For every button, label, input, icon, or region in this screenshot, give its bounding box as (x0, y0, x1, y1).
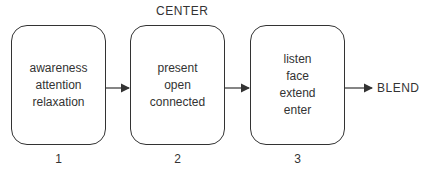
stage-1-line: attention (35, 77, 81, 94)
stage-2-line: present (157, 60, 197, 77)
stage-3-line: extend (279, 85, 315, 102)
stage-number-3: 3 (250, 152, 345, 166)
center-label: CENTER (156, 4, 208, 18)
stage-2-line: connected (150, 94, 205, 111)
stage-3-line: face (286, 68, 309, 85)
blend-label: BLEND (377, 81, 420, 95)
stage-number-2: 2 (130, 152, 225, 166)
stage-3-line: listen (283, 51, 311, 68)
stage-2-line: open (164, 77, 191, 94)
stage-1-line: awareness (29, 60, 87, 77)
stage-number-1: 1 (11, 152, 106, 166)
stage-3-line: enter (284, 102, 311, 119)
stage-1-line: relaxation (32, 94, 84, 111)
stage-box-2: present open connected (130, 25, 225, 145)
stage-box-3: listen face extend enter (250, 25, 345, 145)
stage-box-1: awareness attention relaxation (11, 25, 106, 145)
